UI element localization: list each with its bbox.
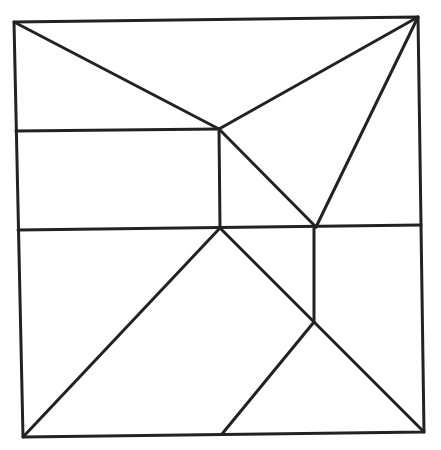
internal-segments [14,17,424,437]
vertical-A-to-B-line [219,129,220,228]
diag-B-to-bottom-left-line [23,228,220,437]
horizontal-upper-left-line [16,129,219,131]
diag-top-right-to-C-line [316,17,418,227]
dissected-square-diagram [0,0,441,450]
diag-D-to-E-line [222,322,314,434]
diag-top-left-to-A-line [14,22,219,129]
diag-top-right-to-A-line [219,17,418,129]
diagram-svg [0,0,441,450]
diag-A-to-C-line [219,129,316,227]
